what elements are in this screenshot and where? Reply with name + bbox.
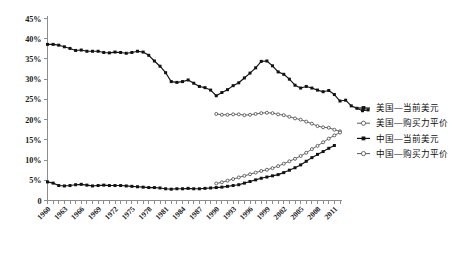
data-point-marker xyxy=(125,52,128,55)
line-chart: 05%10%15%20%25%30%35%40%45% 196019631966… xyxy=(0,0,471,257)
data-point-marker xyxy=(327,147,330,150)
data-point-marker xyxy=(153,186,156,189)
y-tick-label: 20% xyxy=(25,116,41,125)
data-point-marker xyxy=(209,89,212,92)
data-point-marker xyxy=(271,112,274,115)
data-point-marker xyxy=(52,182,55,185)
x-tick-label: 1984 xyxy=(170,204,187,221)
data-point-marker xyxy=(310,87,313,90)
x-tick-label: 2011 xyxy=(322,204,339,221)
legend-marker xyxy=(361,121,365,125)
data-point-marker xyxy=(339,100,342,103)
data-point-marker xyxy=(237,113,240,116)
data-point-marker xyxy=(288,115,291,118)
data-point-marker xyxy=(142,186,145,189)
x-tick-label: 1990 xyxy=(204,204,221,221)
data-point-marker xyxy=(249,173,252,176)
data-point-marker xyxy=(305,151,308,154)
data-point-marker xyxy=(249,113,252,116)
data-point-marker xyxy=(254,178,257,181)
data-point-marker xyxy=(339,131,342,134)
data-point-marker xyxy=(181,187,184,190)
data-point-marker xyxy=(322,90,325,93)
data-series-group xyxy=(46,43,370,191)
data-point-marker xyxy=(294,117,297,120)
data-point-marker xyxy=(294,84,297,87)
data-point-marker xyxy=(215,112,218,115)
chart-legend: 美国—当前美元美国—购买力平价中国—当前美元中国—购买力平价 xyxy=(357,102,448,159)
data-point-marker xyxy=(294,157,297,160)
legend-item-2[interactable]: 美国—购买力平价 xyxy=(357,117,448,128)
legend-label: 美国—购买力平价 xyxy=(376,117,448,128)
data-point-marker xyxy=(102,51,105,54)
data-point-marker xyxy=(85,50,88,53)
legend-marker xyxy=(362,137,366,141)
data-point-marker xyxy=(209,186,212,189)
data-point-marker xyxy=(310,156,313,159)
legend-marker xyxy=(361,152,365,156)
data-point-marker xyxy=(226,88,229,91)
x-tick-label: 1999 xyxy=(255,204,272,221)
legend-marker xyxy=(362,106,366,110)
data-point-marker xyxy=(237,183,240,186)
data-point-marker xyxy=(277,173,280,176)
data-point-marker xyxy=(333,134,336,137)
data-point-marker xyxy=(159,186,162,189)
data-point-marker xyxy=(243,114,246,117)
y-tick-label: 25% xyxy=(25,95,41,104)
data-point-marker xyxy=(85,184,88,187)
y-tick-label: 45% xyxy=(25,15,41,24)
x-tick-label: 1981 xyxy=(153,204,170,221)
data-point-marker xyxy=(108,51,111,54)
y-tick-label: 30% xyxy=(25,75,41,84)
legend-label: 中国—当前美元 xyxy=(376,133,439,144)
data-point-marker xyxy=(327,126,330,129)
y-axis: 05%10%15%20%25%30%35%40%45% xyxy=(25,15,47,206)
legend-item-4[interactable]: 中国—购买力平价 xyxy=(357,148,448,159)
data-point-marker xyxy=(125,184,128,187)
data-point-marker xyxy=(260,177,263,180)
data-point-marker xyxy=(192,82,195,85)
x-tick-label: 1969 xyxy=(86,204,103,221)
data-point-marker xyxy=(265,111,268,114)
data-point-marker xyxy=(136,50,139,53)
x-tick-label: 1978 xyxy=(137,204,154,221)
data-point-marker xyxy=(322,126,325,129)
data-point-marker xyxy=(310,148,313,151)
data-point-marker xyxy=(97,50,100,53)
data-point-marker xyxy=(299,87,302,90)
x-tick-label: 2005 xyxy=(288,204,305,221)
data-point-marker xyxy=(271,64,274,67)
data-point-marker xyxy=(271,167,274,170)
data-point-marker xyxy=(164,187,167,190)
x-tick-label: 1963 xyxy=(52,204,69,221)
x-tick-label: 1966 xyxy=(69,204,86,221)
data-point-marker xyxy=(265,176,268,179)
data-point-marker xyxy=(204,86,207,89)
data-point-marker xyxy=(220,113,223,116)
data-point-marker xyxy=(265,59,268,62)
x-tick-label: 1960 xyxy=(35,204,52,221)
data-point-marker xyxy=(91,50,94,53)
data-point-marker xyxy=(175,187,178,190)
data-point-marker xyxy=(175,81,178,84)
data-point-marker xyxy=(187,187,190,190)
x-tick-label: 1993 xyxy=(221,204,238,221)
data-point-marker xyxy=(282,114,285,117)
x-tick-label: 1996 xyxy=(238,204,255,221)
series-4 xyxy=(215,131,342,185)
data-point-marker xyxy=(130,185,133,188)
data-point-marker xyxy=(260,112,263,115)
data-point-marker xyxy=(46,43,49,46)
data-point-marker xyxy=(46,180,49,183)
x-tick-label: 1972 xyxy=(103,204,120,221)
data-point-marker xyxy=(147,54,150,57)
data-point-marker xyxy=(277,165,280,168)
data-point-marker xyxy=(243,174,246,177)
data-point-marker xyxy=(119,184,122,187)
legend-item-1[interactable]: 美国—当前美元 xyxy=(357,102,439,113)
data-point-marker xyxy=(153,59,156,62)
data-point-marker xyxy=(299,118,302,121)
legend-item-3[interactable]: 中国—当前美元 xyxy=(357,133,439,144)
data-point-marker xyxy=(254,171,257,174)
